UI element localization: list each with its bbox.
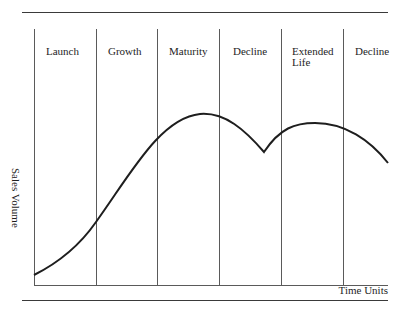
x-axis-label: Time Units	[339, 284, 388, 296]
sales-curve	[0, 0, 410, 313]
bottom-rule	[22, 300, 388, 301]
baseline-axis	[34, 285, 388, 286]
